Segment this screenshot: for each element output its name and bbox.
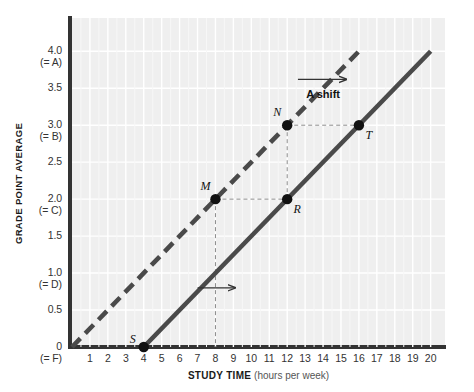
data-point-label-T: T (366, 128, 374, 142)
chart-figure: 0(= F)0.51.0(= D)1.52.0(= C)2.53.0(= B)3… (0, 0, 474, 392)
data-point-N (282, 120, 292, 130)
data-point-label-M: M (199, 179, 211, 193)
grid-lines (72, 18, 445, 347)
a-shift-label: A shift (306, 88, 340, 100)
data-point-label-R: R (293, 202, 302, 216)
data-point-T (354, 120, 364, 130)
data-point-label-S: S (130, 332, 136, 346)
data-point-label-N: N (272, 105, 282, 119)
data-point-S (139, 342, 149, 352)
data-point-M (210, 194, 220, 204)
data-point-R (282, 194, 292, 204)
annotations: A shift (198, 79, 347, 287)
chart-overlay: A shiftSMNRT (0, 0, 474, 392)
